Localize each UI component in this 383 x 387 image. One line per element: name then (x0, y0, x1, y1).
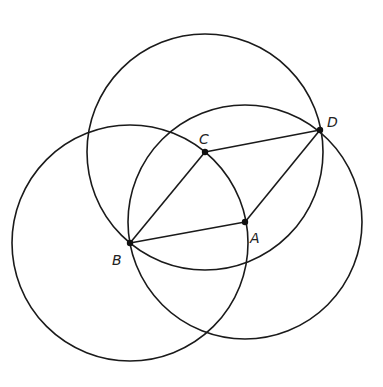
segment-ab (130, 222, 245, 243)
segment-cd (205, 130, 320, 152)
labels: A B C D (112, 114, 338, 268)
label-c: C (199, 131, 209, 147)
point-a (242, 219, 248, 225)
label-d: D (327, 114, 338, 130)
geometry-diagram: A B C D (0, 0, 383, 387)
circles (12, 34, 362, 361)
point-d (317, 127, 323, 133)
segments (130, 130, 320, 243)
segment-bc (130, 152, 205, 243)
point-b (127, 240, 133, 246)
label-a: A (249, 230, 260, 246)
point-c (202, 149, 208, 155)
label-b: B (112, 252, 122, 268)
